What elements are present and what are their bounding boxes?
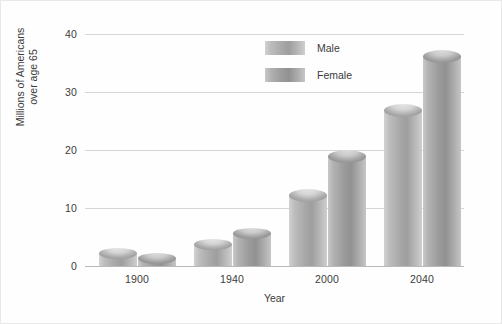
- legend-item-male[interactable]: Male: [265, 41, 352, 55]
- x-tick-1900: 1900: [125, 273, 149, 285]
- legend-item-female[interactable]: Female: [265, 68, 352, 82]
- bar-body: [423, 56, 461, 266]
- bar-2040-male[interactable]: [384, 104, 422, 266]
- y-axis-title-line-2: over age 65: [27, 49, 40, 104]
- x-tick-2000: 2000: [315, 273, 339, 285]
- bar-1900-female[interactable]: [138, 253, 176, 266]
- bar-cap: [384, 104, 422, 117]
- gridline-40: [85, 34, 464, 35]
- y-tick-20: 20: [65, 144, 77, 156]
- bar-cap: [99, 248, 137, 259]
- bar-1900-male[interactable]: [99, 248, 137, 266]
- bar-1940-female[interactable]: [233, 228, 271, 266]
- x-tick-1940: 1940: [220, 273, 244, 285]
- bar-cap: [289, 189, 327, 202]
- y-axis-title-line-1: Millions of Americans: [14, 28, 27, 127]
- bar-cap: [138, 253, 176, 264]
- y-axis-tick-labels: 40 30 20 10 0: [53, 34, 77, 266]
- bar-chart-figure: 40 30 20 10 0 Millions of Americans over…: [0, 0, 502, 324]
- bar-cap: [194, 239, 232, 250]
- y-tick-10: 10: [65, 202, 77, 214]
- bar-cap: [328, 150, 366, 163]
- y-tick-0: 0: [71, 260, 77, 272]
- bar-2000-female[interactable]: [328, 150, 366, 266]
- legend-label-male: Male: [317, 42, 340, 54]
- bar-body: [384, 110, 422, 266]
- legend-swatch-female-icon: [265, 68, 305, 82]
- y-tick-30: 30: [65, 86, 77, 98]
- bar-2040-female[interactable]: [423, 50, 461, 266]
- x-axis-title: Year: [85, 292, 464, 304]
- bar-1940-male[interactable]: [194, 239, 232, 266]
- bar-cap: [423, 50, 461, 63]
- y-axis-title: Millions of Americans over age 65: [7, 17, 47, 137]
- axis-baseline-0: [85, 266, 464, 267]
- bar-body: [289, 195, 327, 266]
- x-axis-tick-labels: 1900 1940 2000 2040: [85, 273, 464, 289]
- bar-cap: [233, 228, 271, 239]
- legend-label-female: Female: [317, 69, 352, 81]
- bar-2000-male[interactable]: [289, 189, 327, 266]
- legend-swatch-male-icon: [265, 41, 305, 55]
- chart-legend: Male Female: [265, 41, 352, 95]
- bar-body: [328, 156, 366, 266]
- y-tick-40: 40: [65, 28, 77, 40]
- x-tick-2040: 2040: [410, 273, 434, 285]
